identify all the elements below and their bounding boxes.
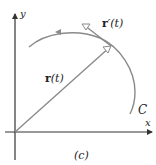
position-vector-argument: (t): [51, 72, 64, 85]
y-axis-label: y: [20, 9, 26, 19]
x-axis-label: x: [145, 118, 151, 128]
diagram-canvas: [0, 0, 156, 165]
position-vector-label: r(t): [45, 73, 64, 84]
vector-function-diagram: y x C r(t) r′(t) (c): [0, 0, 156, 165]
position-vector-r: [15, 47, 110, 132]
tangent-vector-argument: ′(t): [108, 17, 124, 30]
curve-label: C: [138, 104, 147, 116]
tangent-vector-label: r′(t): [102, 18, 123, 29]
figure-caption: (c): [74, 150, 89, 161]
